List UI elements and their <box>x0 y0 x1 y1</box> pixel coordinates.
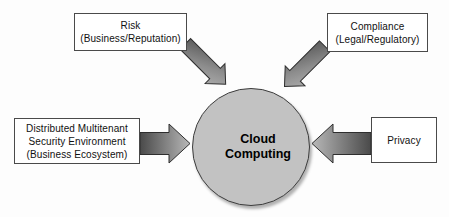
node-privacy-line1: Privacy <box>387 134 420 147</box>
node-compliance-line2: (Legal/Regulatory) <box>335 33 419 46</box>
cloud-computing-line2: Computing <box>225 147 291 161</box>
cloud-computing-line1: Cloud <box>240 132 275 146</box>
cloud-computing-label: Cloud Computing <box>225 132 291 162</box>
node-privacy[interactable]: Privacy <box>371 117 437 163</box>
node-risk-line1: Risk <box>121 19 141 32</box>
diagram-canvas: Risk (Business/Reputation) Compliance (L… <box>0 0 449 217</box>
node-dmse-line1: Distributed Multitenant <box>26 122 128 135</box>
node-dmse-line3: (Business Ecosystem) <box>27 148 128 161</box>
arrow-dmse-to-cloud <box>140 124 190 163</box>
node-risk-line2: (Business/Reputation) <box>80 32 180 45</box>
node-cloud-computing[interactable]: Cloud Computing <box>192 88 310 206</box>
node-compliance-line1: Compliance <box>351 20 405 33</box>
node-risk[interactable]: Risk (Business/Reputation) <box>74 13 187 51</box>
arrow-compliance-to-cloud <box>275 36 335 96</box>
node-dmse-line2: Security Environment <box>28 135 125 148</box>
arrow-privacy-to-cloud <box>312 124 371 163</box>
node-compliance[interactable]: Compliance (Legal/Regulatory) <box>327 13 428 52</box>
node-distributed-multitenant-security-environment[interactable]: Distributed Multitenant Security Environ… <box>14 118 140 164</box>
